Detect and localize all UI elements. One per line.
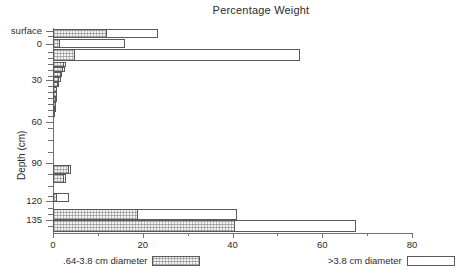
y-tick-label: 0 — [37, 38, 42, 49]
legend-entry-small-diameter: .64-3.8 cm diameter — [63, 255, 200, 266]
x-tick — [412, 233, 413, 238]
x-tick-minor — [277, 233, 278, 236]
y-tick-minor — [48, 186, 53, 187]
x-tick — [143, 233, 144, 238]
plot-area: 020406080 surface0306090120135 — [53, 28, 412, 233]
x-tick-label: 0 — [50, 239, 55, 250]
legend-label-small-diameter: .64-3.8 cm diameter — [63, 255, 147, 266]
y-tick-minor — [48, 174, 53, 175]
x-tick — [233, 233, 234, 238]
y-tick-minor — [48, 140, 53, 141]
bar-small-diameter — [53, 49, 75, 61]
legend-label-large-diameter: >3.8 cm diameter — [328, 255, 402, 266]
chart-root: Percentage Weight 020406080 surface03060… — [0, 0, 462, 280]
y-tick-minor — [48, 196, 53, 197]
x-tick-label: 60 — [317, 239, 328, 250]
y-tick — [46, 220, 53, 221]
y-tick — [46, 80, 53, 81]
y-tick-label: 60 — [31, 116, 42, 127]
x-tick-label: 40 — [227, 239, 238, 250]
y-tick-minor — [48, 208, 53, 209]
bar-small-diameter — [53, 112, 55, 117]
y-axis-title: Depth (cm) — [16, 131, 27, 180]
y-tick-minor — [48, 116, 53, 117]
y-tick-minor — [48, 92, 53, 93]
x-tick — [53, 233, 54, 238]
y-tick — [46, 44, 53, 45]
x-tick-label: 80 — [407, 239, 418, 250]
y-tick-minor — [48, 98, 53, 99]
y-tick-minor — [48, 36, 53, 37]
y-tick-minor — [48, 86, 53, 87]
y-tick-minor — [48, 104, 53, 105]
bar-small-diameter — [53, 39, 60, 48]
x-tick-minor — [98, 233, 99, 236]
y-tick-label: 120 — [26, 195, 42, 206]
bar-small-diameter — [53, 165, 69, 174]
y-tick — [46, 31, 53, 32]
y-tick-label: surface — [11, 25, 42, 36]
bar-small-diameter — [53, 209, 138, 220]
bar-large-diameter — [53, 49, 300, 61]
y-tick-minor — [48, 128, 53, 129]
bar-small-diameter — [53, 29, 107, 38]
chart-title: Percentage Weight — [0, 4, 462, 16]
y-tick-minor — [48, 52, 53, 53]
legend-entry-large-diameter: >3.8 cm diameter — [328, 255, 455, 266]
chart-legend: .64-3.8 cm diameter >3.8 cm diameter — [0, 255, 462, 273]
y-tick-minor — [48, 226, 53, 227]
y-tick-minor — [48, 152, 53, 153]
y-tick-minor — [48, 214, 53, 215]
y-tick-minor — [48, 110, 53, 111]
legend-swatch-open — [407, 256, 455, 266]
y-tick-minor — [48, 58, 53, 59]
y-tick-label: 90 — [31, 157, 42, 168]
x-tick-minor — [367, 233, 368, 236]
y-tick-label: 30 — [31, 74, 42, 85]
y-tick-minor — [48, 76, 53, 77]
y-tick — [46, 122, 53, 123]
x-tick — [322, 233, 323, 238]
y-tick-minor — [48, 64, 53, 65]
bar-small-diameter — [53, 174, 64, 183]
legend-swatch-hatched — [152, 256, 200, 266]
y-tick-minor — [48, 70, 53, 71]
bar-small-diameter — [53, 220, 235, 232]
bar-small-diameter — [53, 193, 57, 202]
bar-large-diameter — [53, 39, 125, 48]
y-tick — [46, 163, 53, 164]
y-tick-label: 135 — [26, 214, 42, 225]
y-tick — [46, 201, 53, 202]
x-tick-label: 20 — [137, 239, 148, 250]
x-tick-minor — [188, 233, 189, 236]
